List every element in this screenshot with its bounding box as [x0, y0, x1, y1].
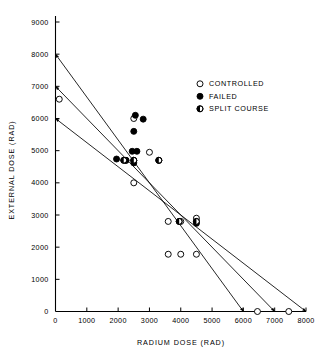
series-failed [114, 112, 200, 226]
y-tick-label: 4000 [31, 178, 48, 187]
x-tick-label: 0 [53, 316, 57, 325]
legend-label: CONTROLLED [209, 79, 264, 88]
data-point [286, 309, 292, 315]
data-point [114, 156, 120, 162]
y-axis-title: EXTERNAL DOSE (RAD) [7, 120, 16, 219]
data-point [131, 157, 137, 163]
x-tick-label: 5000 [203, 316, 220, 325]
y-tick-label: 7000 [31, 82, 48, 91]
y-tick-label: 9000 [31, 18, 48, 27]
data-point [178, 251, 184, 257]
legend-marker-open-circle [197, 81, 203, 87]
legend-marker-half-filled-circle [197, 106, 203, 112]
data-point [134, 148, 140, 154]
data-point [165, 218, 171, 224]
scatter-chart: 0100020003000400050006000700080009000 01… [0, 0, 318, 354]
legend-label: FAILED [209, 92, 237, 101]
reference-line [56, 119, 307, 312]
data-point [254, 309, 260, 315]
reference-line [56, 86, 275, 311]
data-point [121, 157, 127, 163]
legend-label: SPLIT COURSE [209, 104, 269, 113]
x-axis-ticks: 010002000300040005000600070008000 [53, 308, 314, 325]
x-tick-label: 1000 [78, 316, 95, 325]
x-tick-label: 8000 [297, 316, 314, 325]
chart-canvas: 0100020003000400050006000700080009000 01… [0, 0, 318, 354]
x-axis-title: RADIUM DOSE (RAD) [137, 338, 225, 347]
reference-lines [56, 54, 307, 311]
y-tick-label: 1000 [31, 275, 48, 284]
x-tick-label: 3000 [141, 316, 158, 325]
data-point [193, 218, 199, 224]
data-point [131, 128, 137, 134]
data-point [131, 180, 137, 186]
data-point [156, 157, 162, 163]
x-tick-label: 4000 [172, 316, 189, 325]
y-tick-label: 8000 [31, 50, 48, 59]
series-split-course [121, 157, 200, 224]
y-tick-label: 0 [44, 307, 48, 316]
y-tick-label: 3000 [31, 211, 48, 220]
x-tick-label: 2000 [110, 316, 127, 325]
legend-marker-filled-circle [197, 93, 203, 99]
y-tick-label: 2000 [31, 243, 48, 252]
data-point [132, 112, 138, 118]
data-point [140, 116, 146, 122]
x-tick-label: 6000 [235, 316, 252, 325]
y-tick-label: 6000 [31, 114, 48, 123]
y-tick-label: 5000 [31, 146, 48, 155]
data-point [165, 251, 171, 257]
series-controlled [56, 96, 292, 314]
data-point [56, 96, 62, 102]
axes [56, 16, 307, 312]
data-point [146, 149, 152, 155]
chart-legend: CONTROLLEDFAILEDSPLIT COURSE [197, 79, 269, 113]
x-tick-label: 7000 [266, 316, 283, 325]
data-points-layer [56, 96, 292, 314]
data-point [193, 251, 199, 257]
data-point [176, 218, 182, 224]
